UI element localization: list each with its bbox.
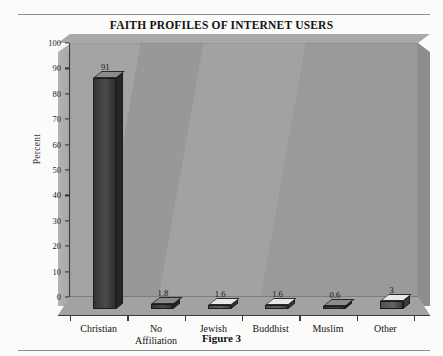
y-tick-mark	[65, 144, 69, 145]
x-tick-mark	[357, 316, 358, 321]
x-tick-mark	[185, 316, 186, 321]
x-tick-mark	[70, 316, 71, 321]
page-rule-top	[18, 14, 430, 15]
bar-value-label: 1.8	[158, 288, 169, 298]
y-tick-label: 100	[48, 38, 65, 48]
y-tick-mark	[65, 296, 69, 297]
y-tick-label: 30	[53, 216, 66, 226]
bar-front-face	[380, 301, 403, 309]
y-axis-line	[69, 43, 70, 297]
figure-caption: Figure 3	[0, 332, 443, 344]
y-tick-mark	[65, 119, 69, 120]
y-tick-mark	[65, 195, 69, 196]
x-tick-mark	[242, 316, 243, 321]
y-tick-mark	[65, 93, 69, 94]
bar-buddhist: 1.6	[265, 305, 288, 309]
y-tick-label: 60	[53, 140, 66, 150]
plot-right-depth-edge	[418, 43, 430, 306]
y-tick-label: 50	[53, 165, 66, 175]
bar-value-label: 3	[390, 285, 394, 295]
bar-christian: 91	[93, 78, 116, 309]
bar-value-label: 91	[101, 62, 110, 72]
bar-value-label: 0.6	[330, 290, 341, 300]
y-tick-label: 0	[57, 292, 65, 302]
y-axis-title: Percent	[32, 114, 42, 184]
x-tick-mark	[127, 316, 128, 321]
bar-value-label: 1.6	[272, 289, 283, 299]
bar-value-label: 1.6	[215, 289, 226, 299]
bar-no-affiliation: 1.8	[151, 304, 174, 309]
bar-front-face	[151, 304, 174, 309]
plot-area: 0102030405060708090100 911.81.61.60.63 C…	[58, 34, 430, 324]
y-tick-mark	[65, 246, 69, 247]
y-tick-mark	[65, 42, 69, 43]
y-tick-mark	[65, 169, 69, 170]
x-tick-mark	[299, 316, 300, 321]
bar-other: 3	[380, 301, 403, 309]
chart-title: FAITH PROFILES OF INTERNET USERS	[0, 19, 443, 31]
y-tick-label: 40	[53, 190, 66, 200]
bar-front-face	[208, 305, 231, 309]
bar-front-face	[93, 78, 116, 309]
bar-front-face	[323, 306, 346, 309]
y-tick-label: 10	[53, 267, 66, 277]
page-rule-bottom	[18, 350, 430, 351]
x-tick-mark	[414, 316, 415, 321]
y-tick-mark	[65, 68, 69, 69]
bar-jewish: 1.6	[208, 305, 231, 309]
y-tick-label: 90	[53, 63, 66, 73]
x-axis-line	[58, 315, 430, 316]
y-tick-mark	[65, 271, 69, 272]
chart-figure: Percent 0102030405060708090100 911.81.61…	[20, 34, 430, 324]
y-tick-mark	[65, 220, 69, 221]
y-tick-label: 70	[53, 114, 66, 124]
bar-side-face	[116, 72, 123, 309]
y-tick-label: 20	[53, 241, 66, 251]
bar-muslim: 0.6	[323, 306, 346, 309]
y-tick-label: 80	[53, 89, 66, 99]
bar-front-face	[265, 305, 288, 309]
